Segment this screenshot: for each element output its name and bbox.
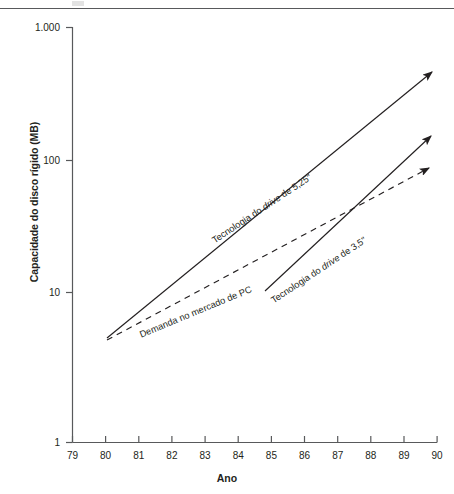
plot-area	[0, 0, 454, 494]
x-axis-ticks	[73, 436, 438, 443]
series-line-drive-35	[265, 136, 431, 291]
x-tick-label-80: 80	[100, 450, 111, 461]
x-tick-label-81: 81	[133, 450, 144, 461]
x-tick-label-87: 87	[332, 450, 343, 461]
x-tick-label-82: 82	[166, 450, 177, 461]
y-tick-label-1: 1	[16, 437, 60, 448]
y-tick-label-1000: 1.000	[16, 22, 60, 33]
x-tick-label-89: 89	[398, 450, 409, 461]
x-tick-label-83: 83	[200, 450, 211, 461]
x-tick-label-90: 90	[432, 450, 443, 461]
x-tick-label-84: 84	[233, 450, 244, 461]
y-axis-ticks	[66, 28, 73, 443]
x-axis-title: Ano	[0, 472, 454, 484]
x-tick-label-86: 86	[299, 450, 310, 461]
x-tick-label-85: 85	[266, 450, 277, 461]
x-tick-label-79: 79	[67, 450, 78, 461]
chart-figure: 1.000 100 10 1 79 80 81 82 83 84 85 86 8…	[0, 0, 454, 494]
y-axis-title: Capacidade do disco rígido (MB)	[28, 82, 40, 322]
x-tick-label-88: 88	[365, 450, 376, 461]
series-line-pc-demand	[107, 168, 429, 340]
